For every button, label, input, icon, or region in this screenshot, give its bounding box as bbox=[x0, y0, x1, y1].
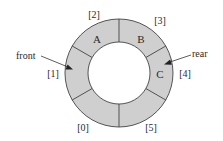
slot-4-value: C bbox=[156, 68, 163, 80]
slot-2-value: A bbox=[93, 33, 101, 45]
circular-queue-diagram: A B C [2] [3] [1] [4] [0] [5] front rear bbox=[0, 0, 223, 141]
slot-3-value: B bbox=[137, 33, 144, 45]
index-label-0: [0] bbox=[77, 122, 89, 133]
index-label-1: [1] bbox=[47, 68, 59, 79]
index-label-2: [2] bbox=[88, 9, 100, 20]
front-label: front bbox=[16, 50, 36, 61]
index-label-3: [3] bbox=[154, 15, 166, 26]
index-label-4: [4] bbox=[179, 68, 191, 79]
rear-label: rear bbox=[192, 48, 208, 59]
index-label-5: [5] bbox=[145, 122, 157, 133]
